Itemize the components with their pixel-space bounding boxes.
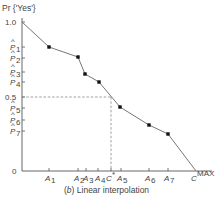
svg-text:6: 6 — [151, 176, 156, 185]
data-markers — [47, 45, 169, 135]
svg-text:A: A — [44, 174, 50, 183]
svg-text:6: 6 — [16, 118, 21, 127]
svg-text:A: A — [144, 174, 150, 183]
x-tick-a6: A 6 — [144, 174, 156, 185]
x-tick-a1: A 1 — [44, 174, 56, 185]
svg-text:5: 5 — [123, 176, 128, 185]
y-tick-zero: 0 — [12, 167, 17, 176]
chart-caption: (b) Linear interpolation — [64, 185, 149, 195]
svg-text:A: A — [163, 174, 169, 183]
y-ticks — [22, 22, 25, 131]
svg-text:7: 7 — [170, 176, 175, 185]
svg-text:3: 3 — [89, 176, 94, 185]
svg-text:MAX: MAX — [197, 169, 215, 178]
interpolation-line — [22, 22, 196, 171]
svg-text:A: A — [73, 174, 79, 183]
marker-a3 — [83, 72, 86, 75]
marker-a7 — [166, 132, 169, 135]
dashed-guide — [22, 97, 111, 171]
x-tick-a5: A 5 — [116, 174, 128, 185]
marker-a1 — [47, 45, 50, 48]
x-tick-cstar: C * — [106, 170, 115, 183]
svg-text:1: 1 — [51, 176, 56, 185]
svg-text:5: 5 — [16, 106, 21, 115]
marker-a5 — [118, 105, 121, 108]
svg-text:A: A — [116, 174, 122, 183]
x-tick-a7: A 7 — [163, 174, 175, 185]
svg-text:4: 4 — [16, 80, 21, 89]
svg-text:A: A — [82, 174, 88, 183]
svg-text:1: 1 — [16, 45, 21, 54]
linear-interpolation-chart: Pr {'Yes'} 1.0 ^ P 1 ^ P 2 ^ P 3 ^ P 4 0… — [0, 0, 220, 198]
y-tick-1: 1.0 — [5, 18, 17, 27]
x-tick-a4: A 4 — [94, 174, 106, 185]
svg-text:7: 7 — [16, 129, 21, 138]
marker-a6 — [147, 123, 150, 126]
svg-text:A: A — [94, 174, 100, 183]
marker-a2 — [76, 55, 79, 58]
marker-a4 — [97, 80, 100, 83]
svg-text:3: 3 — [16, 70, 21, 79]
svg-text:2: 2 — [16, 56, 21, 65]
y-axis-title: Pr {'Yes'} — [2, 3, 36, 13]
svg-text:*: * — [112, 170, 115, 179]
